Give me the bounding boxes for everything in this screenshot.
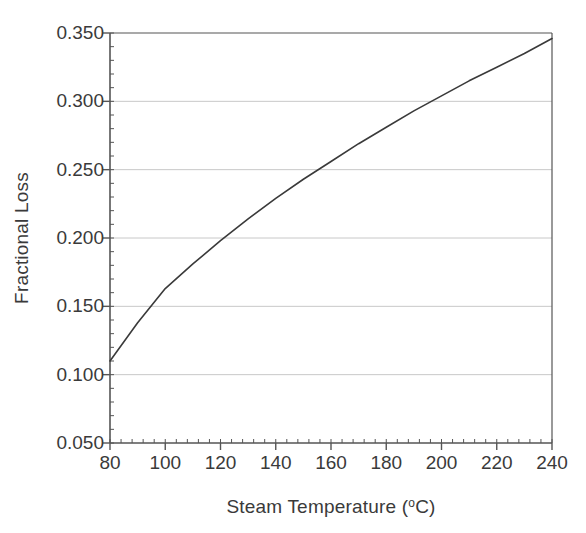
y-tick-label: 0.150 (32, 295, 104, 317)
x-axis-title-text: Steam Temperature (oC) (226, 496, 435, 517)
x-tick-label: 140 (260, 452, 292, 474)
data-series (110, 38, 552, 361)
chart-figure: Fractional Loss 0.0500.1000.1500.2000.25… (0, 0, 586, 533)
y-tick-label: 0.250 (32, 159, 104, 181)
y-tick-label: 0.350 (32, 22, 104, 44)
x-tick-label: 240 (536, 452, 568, 474)
gridlines (110, 101, 552, 374)
y-tick-label: 0.100 (32, 364, 104, 386)
major-ticks (103, 33, 552, 450)
y-tick-label: 0.050 (32, 432, 104, 454)
x-tick-label: 160 (315, 452, 347, 474)
x-tick-label: 100 (149, 452, 181, 474)
x-tick-label: 200 (426, 452, 458, 474)
x-axis-title-tail: C) (415, 496, 435, 517)
series-line (110, 38, 552, 361)
x-tick-label: 80 (99, 452, 120, 474)
x-axis-title-main: Steam Temperature ( (226, 496, 408, 517)
x-tick-label: 220 (481, 452, 513, 474)
y-axis-tick-labels: 0.0500.1000.1500.2000.2500.3000.350 (28, 0, 104, 533)
x-tick-label: 180 (370, 452, 402, 474)
y-tick-label: 0.300 (32, 90, 104, 112)
x-axis-title: Steam Temperature (oC) (110, 496, 552, 518)
y-tick-label: 0.200 (32, 227, 104, 249)
x-tick-label: 120 (205, 452, 237, 474)
